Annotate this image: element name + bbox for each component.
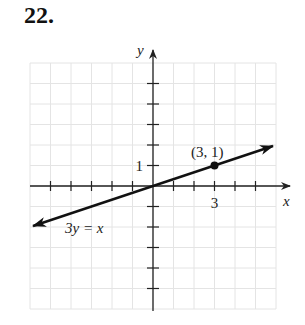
y-tick-label: 1	[136, 158, 144, 174]
equation-label: 3y = x	[64, 220, 104, 236]
x-axis-label: x	[282, 193, 290, 209]
axes	[30, 50, 290, 311]
point-label: (3, 1)	[191, 144, 224, 161]
coordinate-plane: xy31(3, 1)3y = x	[0, 0, 305, 325]
x-tick-label: 3	[211, 195, 219, 211]
y-axis-label: y	[135, 42, 144, 58]
point-marker	[211, 162, 219, 170]
